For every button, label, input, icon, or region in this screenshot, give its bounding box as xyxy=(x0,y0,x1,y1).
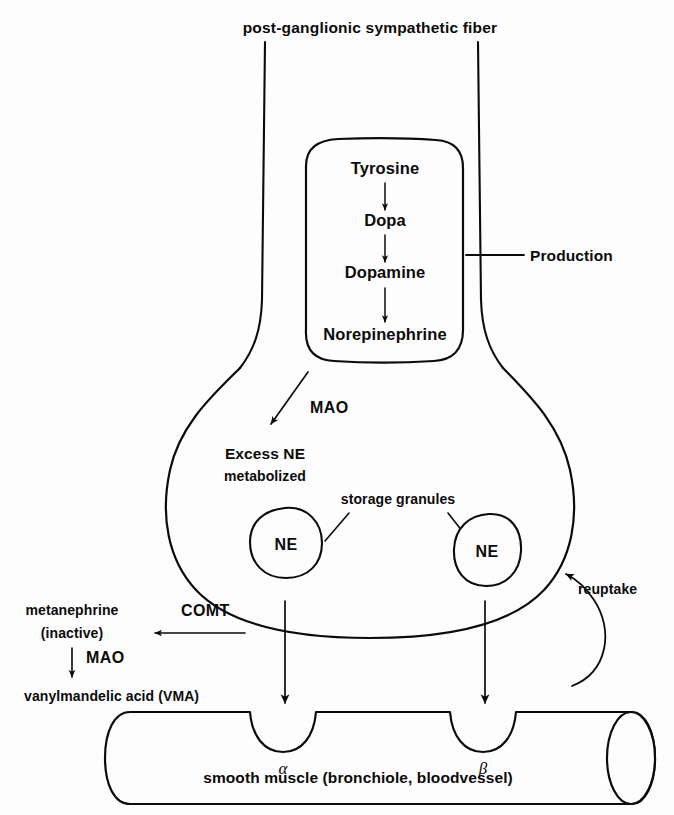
synthesis-step-norepinephrine: Norepinephrine xyxy=(323,325,446,343)
metanephrine-line2: (inactive) xyxy=(41,625,103,641)
excess-ne-line2: metabolized xyxy=(224,468,306,484)
arrow-mao-to-excess-ne xyxy=(271,372,308,424)
storage-granule-right-label: NE xyxy=(476,543,499,560)
smooth-muscle-end-cap xyxy=(607,712,655,804)
mao-metabolism-label: MAO xyxy=(86,649,125,666)
mao-terminal-label: MAO xyxy=(310,399,349,416)
vma-label: vanylmandelic acid (VMA) xyxy=(24,688,199,704)
diagram-figure: post-ganglionic sympathetic fiber Tyrosi… xyxy=(0,0,674,815)
metanephrine-line1: metanephrine xyxy=(26,602,119,618)
diagram-canvas: post-ganglionic sympathetic fiber Tyrosi… xyxy=(0,0,674,815)
comt-label: COMT xyxy=(181,602,230,619)
synthesis-step-tyrosine: Tyrosine xyxy=(351,159,419,177)
smooth-muscle-body xyxy=(105,712,655,804)
storage-granule-left-label: NE xyxy=(275,536,298,553)
synthesis-step-dopa: Dopa xyxy=(364,211,406,229)
excess-ne-line1: Excess NE xyxy=(225,445,305,462)
reuptake-label: reuptake xyxy=(578,581,637,597)
figure-title: post-ganglionic sympathetic fiber xyxy=(243,19,498,36)
granule-leader-left xyxy=(325,513,349,541)
storage-granules-label: storage granules xyxy=(341,491,456,507)
smooth-muscle-label: smooth muscle (bronchiole, bloodvessel) xyxy=(203,769,513,786)
synthesis-step-dopamine: Dopamine xyxy=(345,263,426,281)
axon-wall-right xyxy=(478,42,503,368)
production-label: Production xyxy=(530,247,613,264)
axon-wall-left xyxy=(240,42,265,368)
